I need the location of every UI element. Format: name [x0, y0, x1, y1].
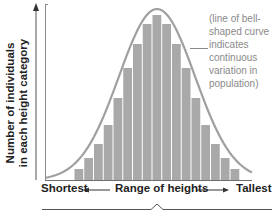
- y-axis-arrowhead-icon: [33, 3, 39, 11]
- histogram-bar: [162, 24, 171, 180]
- y-axis-label: Number of individuals in each height cat…: [2, 28, 32, 178]
- histogram-bar: [143, 24, 152, 180]
- histogram-bar: [133, 44, 142, 180]
- histogram-bar: [94, 144, 103, 180]
- x-axis-shortest-label: Shortest: [41, 182, 88, 194]
- x-axis-labels: Shortest Range of heights Tallest: [40, 182, 280, 198]
- histogram-bar: [75, 169, 84, 180]
- histogram-bar: [231, 169, 240, 180]
- histogram-bar: [84, 158, 93, 180]
- histogram-bar: [192, 98, 201, 180]
- histogram-bar: [123, 68, 132, 180]
- bell-curve-annotation: (line of bell-shaped curve indicates con…: [209, 12, 280, 90]
- histogram-bar: [201, 125, 210, 180]
- histogram-bar: [221, 158, 230, 180]
- histogram-bar: [104, 125, 113, 180]
- histogram-bar: [153, 15, 162, 180]
- bell-curve-histogram-figure: Number of individuals in each height cat…: [0, 0, 280, 217]
- histogram-bar: [172, 44, 181, 180]
- histogram-bar: [114, 98, 123, 180]
- x-axis-range-label: Range of heights: [115, 182, 208, 194]
- x-axis-tallest-label: Tallest: [236, 182, 272, 194]
- histogram-bar: [182, 68, 191, 180]
- histogram-bar: [211, 144, 220, 180]
- range-bracket-line: [42, 204, 272, 210]
- y-axis-label-line2: in each height category: [17, 39, 30, 167]
- y-axis-label-line1: Number of individuals: [4, 39, 17, 167]
